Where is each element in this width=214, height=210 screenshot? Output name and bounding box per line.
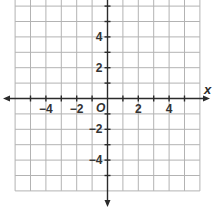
x-tick-label: −4 [39,102,53,116]
coordinate-plane: −4−22442−2−4 x O [0,0,214,210]
y-tick-label: 4 [96,30,103,44]
x-tick-label: 2 [135,102,142,116]
x-axis-left-arrow-icon [3,96,10,102]
origin-label: O [96,101,106,115]
y-tick-label: 2 [96,61,103,75]
y-tick-label: −2 [89,122,103,136]
x-axis-label: x [203,82,212,97]
y-axis-down-arrow-icon [105,200,111,207]
x-tick-label: −2 [70,102,84,116]
x-tick-label: 4 [166,102,173,116]
y-tick-label: −4 [89,153,103,167]
